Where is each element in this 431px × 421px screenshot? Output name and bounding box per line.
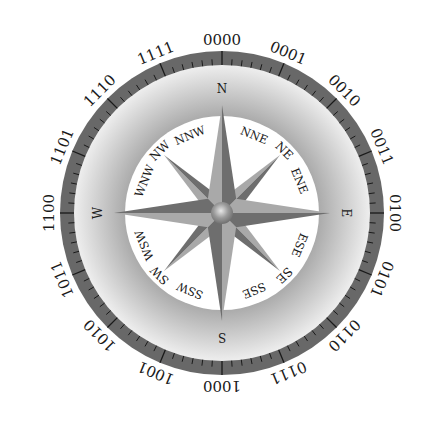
cardinal-label: E — [339, 209, 353, 218]
cardinal-label: N — [217, 82, 228, 96]
compass-rose-diagram: 0000000100100011010001010110011110001001… — [0, 0, 431, 421]
center-hub-sphere — [211, 202, 233, 224]
binary-label: 1100 — [40, 194, 58, 232]
binary-label: 1000 — [203, 377, 241, 395]
center-hub — [211, 202, 233, 224]
compass-svg: 0000000100100011010001010110011110001001… — [0, 0, 431, 421]
binary-label: 0100 — [386, 194, 404, 232]
cardinal-label: S — [218, 330, 226, 344]
binary-label: 0000 — [203, 31, 241, 49]
cardinal-label: W — [91, 206, 105, 219]
